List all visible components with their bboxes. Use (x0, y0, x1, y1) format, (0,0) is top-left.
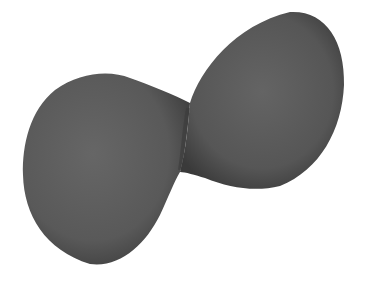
right-lobe (180, 12, 344, 189)
render-viewport (0, 0, 365, 283)
dumbbell-surface (0, 0, 365, 283)
left-lobe (23, 74, 190, 265)
